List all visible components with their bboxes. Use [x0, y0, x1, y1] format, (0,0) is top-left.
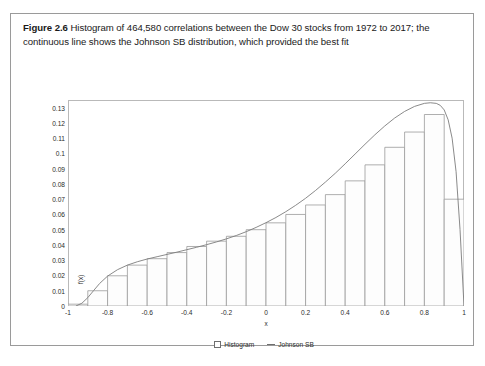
histogram-bars — [68, 115, 464, 307]
x-tick-label: 0.4 — [341, 309, 350, 316]
histogram-bar — [306, 205, 326, 306]
histogram-bar — [385, 147, 405, 306]
curve-swatch-icon — [267, 344, 275, 345]
figure-caption: Figure 2.6 Histogram of 464,580 correlat… — [23, 21, 465, 48]
legend-item-histogram: Histogram — [214, 341, 254, 348]
y-tick-label: 0.06 — [52, 211, 65, 218]
histogram-bar — [405, 132, 425, 306]
histogram-bar — [325, 195, 345, 306]
y-tick-label: 0.11 — [53, 135, 65, 142]
chart: 00.010.020.030.040.050.060.070.080.090.1… — [59, 88, 469, 340]
y-tick-label: 0.04 — [52, 241, 65, 248]
histogram-bar — [207, 241, 227, 306]
y-tick-label: 0.01 — [52, 287, 65, 294]
y-tick-label: 0.09 — [52, 165, 65, 172]
histogram-bar — [246, 230, 266, 306]
x-tick-label: -1 — [65, 309, 71, 316]
figure-caption-text: Histogram of 464,580 correlations betwee… — [23, 22, 430, 47]
x-tick-label: 0.2 — [301, 309, 310, 316]
histogram-plot — [68, 100, 464, 306]
histogram-bar — [167, 253, 187, 306]
x-tick-label: 0.8 — [420, 309, 429, 316]
x-tick-label: 1 — [462, 309, 466, 316]
histogram-bar — [147, 259, 167, 306]
histogram-bar — [226, 236, 246, 306]
figure-container: Figure 2.6 Histogram of 464,580 correlat… — [10, 13, 474, 346]
histogram-bar — [286, 214, 306, 306]
x-tick-label: 0 — [264, 309, 268, 316]
histogram-bar — [88, 291, 108, 306]
y-tick-label: 0.02 — [52, 272, 65, 279]
legend-label-johnson-sb: Johnson SB — [278, 341, 314, 348]
legend-label-histogram: Histogram — [224, 341, 254, 348]
x-tick-label: -0.6 — [142, 309, 153, 316]
x-tick-label: 0.6 — [380, 309, 389, 316]
y-tick-label: 0.08 — [52, 180, 65, 187]
y-tick-label: 0.07 — [52, 196, 65, 203]
x-tick-label: -0.2 — [221, 309, 232, 316]
y-axis-tick-labels: 00.010.020.030.040.050.060.070.080.090.1… — [31, 100, 65, 306]
x-tick-label: -0.8 — [102, 309, 113, 316]
figure-label: Figure 2.6 — [23, 22, 68, 33]
histogram-bar — [424, 115, 444, 307]
histogram-bar — [345, 181, 365, 306]
y-tick-label: 0.13 — [52, 104, 65, 111]
y-axis-title: f(x) — [77, 275, 84, 284]
y-tick-label: 0.05 — [52, 226, 65, 233]
legend-item-johnson-sb: Johnson SB — [267, 341, 314, 348]
y-tick-label: 0.12 — [52, 119, 65, 126]
histogram-bar — [187, 246, 207, 306]
y-tick-label: 0.03 — [52, 257, 65, 264]
x-tick-label: -0.4 — [181, 309, 192, 316]
x-axis-title: x — [68, 320, 464, 327]
histogram-bar — [127, 265, 147, 306]
y-tick-label: 0.1 — [56, 150, 65, 157]
histogram-bar — [365, 165, 385, 306]
histogram-bar — [266, 223, 286, 306]
histogram-bar — [108, 276, 128, 306]
histogram-swatch-icon — [214, 341, 221, 348]
chart-legend: Histogram Johnson SB — [59, 341, 469, 348]
